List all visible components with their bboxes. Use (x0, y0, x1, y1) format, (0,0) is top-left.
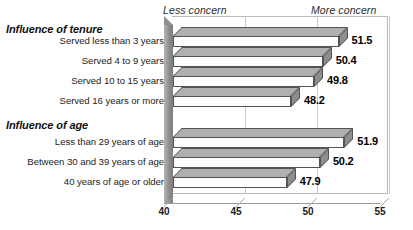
bar-top-face (173, 148, 329, 157)
category-label: Served 16 years or more (60, 95, 164, 106)
bar (173, 148, 329, 159)
floor-tick-40 (164, 194, 173, 203)
category-label: Less than 29 years of age (55, 136, 164, 147)
value-label: 51.9 (357, 135, 378, 147)
tick-label-55: 55 (374, 206, 385, 217)
bar-front-face (173, 36, 339, 47)
bar (173, 67, 323, 78)
less-concern-caption: Less concern (163, 4, 227, 16)
bar-top-face (173, 128, 353, 137)
value-label: 49.8 (327, 74, 348, 86)
bar-chart: Less concern More concern Influence of t… (0, 0, 413, 230)
tick-label-50: 50 (302, 206, 313, 217)
bar-front-face (173, 96, 291, 107)
group-heading-tenure: Influence of tenure (6, 23, 103, 35)
bar-top-face (173, 87, 300, 96)
bar-top-face (173, 47, 332, 56)
bar (173, 128, 353, 139)
value-label: 51.5 (352, 34, 373, 46)
bar-front-face (173, 76, 314, 87)
bar (173, 87, 300, 98)
floor-tick-50 (308, 194, 317, 203)
value-label: 50.2 (333, 155, 354, 167)
axis-baseline (164, 203, 380, 204)
category-label: Served less than 3 years (60, 35, 164, 46)
tick-label-45: 45 (230, 206, 241, 217)
bar-top-face (173, 67, 323, 76)
bar-front-face (173, 157, 320, 168)
category-label: Between 30 and 39 years of age (27, 156, 164, 167)
bar-front-face (173, 177, 287, 188)
category-label: Served 10 to 15 years (71, 75, 164, 86)
bar-front-face (173, 137, 344, 148)
floor-tick-55 (380, 194, 389, 203)
floor-tick-45 (236, 194, 245, 203)
bar (173, 47, 332, 58)
bar-top-face (173, 27, 348, 36)
category-label: 40 years of age or older (64, 176, 164, 187)
gridline-55 (389, 16, 390, 194)
bar-top-face (173, 168, 296, 177)
value-label: 50.4 (336, 54, 357, 66)
axis-floor (164, 194, 388, 210)
bar (173, 27, 348, 38)
axis-side-wall (164, 25, 173, 203)
bar-front-face (173, 56, 323, 67)
group-heading-age: Influence of age (6, 119, 88, 131)
category-label: Served 4 to 9 years (82, 55, 164, 66)
more-concern-caption: More concern (311, 4, 376, 16)
bar (173, 168, 296, 179)
tick-label-40: 40 (158, 206, 169, 217)
value-label: 48.2 (304, 94, 325, 106)
value-label: 47.9 (300, 175, 321, 187)
axis-side-wall-top (164, 16, 173, 25)
